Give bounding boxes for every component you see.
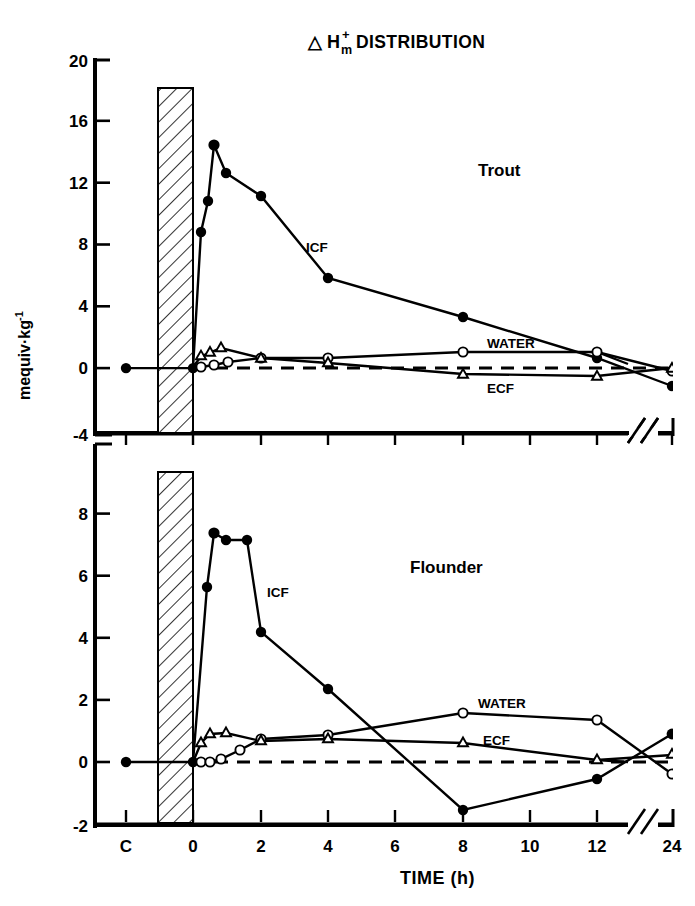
title-superscript-plus: + [342,27,350,42]
trout-y-ticks [95,121,110,368]
y-axis-label-text: mequiv·kg [16,320,33,400]
title-H: H [327,32,340,52]
svg-text:12: 12 [588,837,607,856]
panel-flounder: 8 6 4 2 0 -2 [73,444,682,888]
flounder-ecf-markers [196,728,677,764]
svg-text:-4: -4 [73,426,89,445]
svg-text:4: 4 [323,837,333,856]
y-axis-label: mequiv·kg -1 [13,311,33,400]
flounder-exposure-bar [158,472,193,823]
trout-axis-break [628,418,658,443]
title-triangle-icon: △ [307,32,323,52]
svg-text:16: 16 [69,112,88,131]
flounder-x-axis-right-seg [658,823,673,828]
flounder-y-tick-labels: 8 6 4 2 0 -2 [73,505,89,836]
svg-text:0: 0 [79,753,88,772]
flounder-panel-label: Flounder [410,558,483,577]
flounder-water-label: WATER [478,696,526,711]
svg-text:C: C [120,837,132,856]
svg-text:8: 8 [458,837,467,856]
svg-text:10: 10 [521,837,540,856]
trout-water-label: WATER [487,336,535,351]
flounder-x-ticks [126,810,597,822]
flounder-water-markers [196,708,676,778]
svg-text:20: 20 [69,52,88,71]
x-axis-label: TIME (h) [400,868,475,888]
title-subscript-m: m [341,43,352,57]
svg-text:4: 4 [79,629,89,648]
flounder-axis-break [628,809,658,834]
trout-ecf-label: ECF [487,381,514,396]
figure-title: △ H m + DISTRIBUTION [307,27,485,57]
figure-root: △ H m + DISTRIBUTION mequiv·kg -1 [0,0,695,906]
trout-x-axis-right-seg [658,432,673,436]
trout-icf-label: ICF [306,240,328,255]
svg-text:2: 2 [256,837,265,856]
svg-text:4: 4 [79,297,89,316]
panel-trout: 20 16 12 8 4 0 -4 [69,52,677,445]
svg-text:8: 8 [79,235,88,254]
flounder-x-tick-labels: C 0 2 4 6 8 10 12 24 [120,837,682,856]
trout-y-tick-labels: 20 16 12 8 4 0 -4 [69,52,88,445]
flounder-ecf-label: ECF [483,733,510,748]
chart-canvas: △ H m + DISTRIBUTION mequiv·kg -1 [0,0,695,906]
flounder-icf-line [126,533,672,810]
svg-text:-2: -2 [73,817,88,836]
y-axis-label-exponent: -1 [13,311,25,321]
svg-text:6: 6 [79,567,88,586]
flounder-y-ticks [95,514,110,762]
svg-text:8: 8 [79,505,88,524]
flounder-icf-markers [121,527,678,815]
svg-text:2: 2 [79,691,88,710]
flounder-icf-label: ICF [267,585,289,600]
svg-text:6: 6 [390,837,399,856]
svg-text:12: 12 [69,174,88,193]
svg-text:0: 0 [188,837,197,856]
title-distribution: DISTRIBUTION [356,32,485,52]
trout-exposure-bar [158,88,193,433]
trout-panel-label: Trout [478,161,521,180]
svg-text:0: 0 [79,359,88,378]
svg-text:24: 24 [663,837,682,856]
